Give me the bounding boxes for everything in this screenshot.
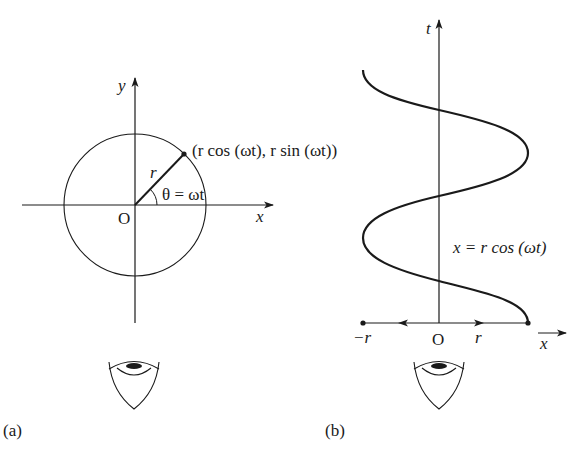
cosine-curve — [363, 70, 528, 323]
angle-arc — [151, 190, 158, 206]
t-axis-label: t — [426, 19, 432, 38]
caption-a: (a) — [3, 421, 22, 440]
figure: y x O r θ = ωt (r cos (ωt), r sin (ωt)) … — [0, 0, 581, 454]
panel-b: t x = r cos (ωt) −r O r x (b) — [325, 19, 566, 440]
eye-icon — [414, 362, 464, 410]
pos-r-label: r — [475, 328, 482, 347]
x-axis-label: x — [255, 207, 264, 226]
point-label: (r cos (ωt), r sin (ωt)) — [192, 141, 337, 160]
x-axis-label-b: x — [539, 334, 548, 353]
rotating-point — [181, 151, 186, 156]
origin-label-b: O — [432, 330, 444, 349]
curve-label: x = r cos (ωt) — [452, 238, 547, 257]
neg-r-dot — [360, 320, 365, 325]
angle-label: θ = ωt — [162, 185, 204, 204]
neg-r-label: −r — [353, 328, 371, 347]
panel-a: y x O r θ = ωt (r cos (ωt), r sin (ωt)) … — [3, 76, 337, 440]
y-axis-label: y — [116, 76, 126, 95]
origin-label: O — [118, 209, 130, 228]
caption-b: (b) — [325, 421, 345, 440]
radius-label: r — [150, 163, 157, 182]
eye-icon — [109, 362, 159, 410]
